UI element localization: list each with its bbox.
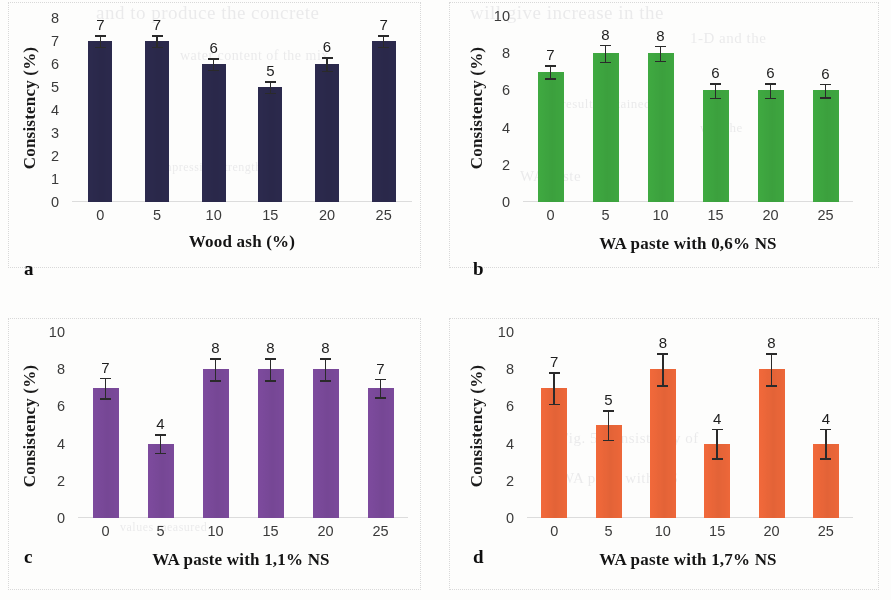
error-cap-upper-c-25 — [375, 379, 386, 381]
value-label-d-10: 8 — [636, 335, 690, 350]
error-cap-lower-d-10 — [657, 385, 668, 387]
error-bar-a-10 — [213, 58, 215, 70]
y-tick-d-6: 6 — [445, 399, 523, 414]
error-cap-upper-c-15 — [265, 358, 276, 360]
bar-c-10[interactable] — [203, 369, 229, 518]
bar-b-0[interactable] — [538, 72, 564, 202]
panel-d-axis-baseline — [527, 517, 853, 518]
bar-a-20[interactable] — [315, 64, 339, 202]
value-label-b-10: 8 — [633, 28, 688, 43]
error-bar-d-10 — [662, 353, 664, 385]
panel-a-x-axis-title: Wood ash (%) — [72, 232, 412, 252]
error-bar-d-5 — [608, 410, 610, 440]
value-label-b-5: 8 — [578, 27, 633, 42]
x-tick-b-5: 5 — [578, 208, 633, 223]
x-tick-b-10: 10 — [633, 208, 688, 223]
x-tick-b-15: 15 — [688, 208, 743, 223]
panel-d-plot-area: 758484 — [527, 332, 853, 518]
panel-c-x-axis-title: WA paste with 1,1% NS — [66, 550, 416, 570]
value-label-b-20: 6 — [743, 65, 798, 80]
bar-a-5[interactable] — [145, 41, 169, 202]
error-cap-lower-d-15 — [712, 458, 723, 460]
y-tick-a-2: 2 — [0, 149, 68, 164]
panel-b-plot-area: 788666 — [523, 16, 853, 202]
error-bar-c-15 — [270, 358, 272, 380]
value-label-d-25: 4 — [799, 411, 853, 426]
bar-c-5[interactable] — [148, 444, 174, 518]
error-bar-c-5 — [160, 434, 162, 453]
error-cap-upper-a-15 — [265, 81, 276, 83]
y-tick-c-8: 8 — [0, 362, 74, 377]
x-tick-d-25: 25 — [799, 524, 853, 539]
error-bar-c-20 — [325, 358, 327, 380]
chart-panel-a: Consistency (%) 776567 Wood ash (%) a 87… — [0, 0, 445, 300]
y-tick-a-6: 6 — [0, 57, 68, 72]
error-cap-upper-c-10 — [210, 358, 221, 360]
figure-page: and to produce the concretewill give inc… — [0, 0, 891, 600]
bar-b-20[interactable] — [758, 90, 784, 202]
error-cap-lower-a-10 — [208, 70, 219, 72]
bar-a-0[interactable] — [88, 41, 112, 202]
value-label-d-15: 4 — [690, 411, 744, 426]
bar-c-25[interactable] — [368, 388, 394, 518]
error-bar-b-25 — [825, 84, 827, 97]
x-tick-c-10: 10 — [188, 524, 243, 539]
y-tick-b-10: 10 — [445, 9, 519, 24]
error-bar-c-25 — [380, 379, 382, 398]
bar-d-20[interactable] — [759, 369, 785, 518]
y-tick-d-10: 10 — [445, 325, 523, 340]
bar-a-25[interactable] — [372, 41, 396, 202]
error-cap-lower-a-0 — [95, 47, 106, 49]
error-cap-upper-d-10 — [657, 353, 668, 355]
error-cap-lower-b-15 — [710, 98, 721, 100]
y-tick-a-4: 4 — [0, 103, 68, 118]
x-tick-c-15: 15 — [243, 524, 298, 539]
error-cap-lower-a-25 — [378, 47, 389, 49]
error-cap-lower-c-5 — [155, 453, 166, 455]
bar-d-0[interactable] — [541, 388, 567, 518]
y-tick-c-0: 0 — [0, 511, 74, 526]
y-tick-d-4: 4 — [445, 437, 523, 452]
value-label-a-10: 6 — [185, 40, 242, 55]
error-bar-b-0 — [550, 65, 552, 78]
value-label-c-0: 7 — [78, 360, 133, 375]
bar-c-20[interactable] — [313, 369, 339, 518]
error-cap-lower-a-5 — [152, 47, 163, 49]
error-cap-upper-b-20 — [765, 83, 776, 85]
error-cap-upper-a-5 — [152, 35, 163, 37]
error-cap-upper-b-15 — [710, 83, 721, 85]
x-tick-d-10: 10 — [636, 524, 690, 539]
error-cap-lower-d-25 — [820, 458, 831, 460]
bar-b-25[interactable] — [813, 90, 839, 202]
y-tick-c-6: 6 — [0, 399, 74, 414]
bar-c-0[interactable] — [93, 388, 119, 518]
error-cap-upper-d-15 — [712, 429, 723, 431]
value-label-a-20: 6 — [299, 39, 356, 54]
error-cap-upper-d-25 — [820, 429, 831, 431]
value-label-c-20: 8 — [298, 340, 353, 355]
y-tick-b-6: 6 — [445, 83, 519, 98]
y-tick-a-5: 5 — [0, 80, 68, 95]
bar-b-10[interactable] — [648, 53, 674, 202]
x-tick-a-15: 15 — [242, 208, 299, 223]
x-tick-c-25: 25 — [353, 524, 408, 539]
bar-b-15[interactable] — [703, 90, 729, 202]
value-label-b-0: 7 — [523, 47, 578, 62]
bar-c-15[interactable] — [258, 369, 284, 518]
panel-b-x-axis-title: WA paste with 0,6% NS — [515, 234, 861, 254]
value-label-a-25: 7 — [355, 17, 412, 32]
y-tick-b-0: 0 — [445, 195, 519, 210]
y-tick-a-7: 7 — [0, 34, 68, 49]
bar-a-10[interactable] — [202, 64, 226, 202]
bar-b-5[interactable] — [593, 53, 619, 202]
error-bar-b-5 — [605, 45, 607, 62]
y-tick-d-2: 2 — [445, 474, 523, 489]
error-cap-upper-b-0 — [545, 65, 556, 67]
x-tick-a-20: 20 — [299, 208, 356, 223]
bar-d-10[interactable] — [650, 369, 676, 518]
y-tick-a-0: 0 — [0, 195, 68, 210]
error-cap-lower-a-15 — [265, 93, 276, 95]
value-label-c-10: 8 — [188, 340, 243, 355]
value-label-b-25: 6 — [798, 66, 853, 81]
bar-a-15[interactable] — [258, 87, 282, 202]
